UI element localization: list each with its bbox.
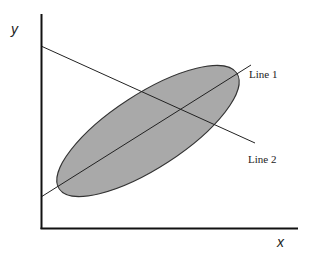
- line-2-label: Line 2: [248, 154, 276, 165]
- y-axis-label: y: [11, 22, 18, 36]
- x-axis-label: x: [277, 235, 284, 249]
- diagram-canvas: y x Line 1 Line 2: [0, 0, 314, 255]
- diagram-graphic: [0, 0, 314, 255]
- line-1: [41, 65, 251, 197]
- shaded-ellipse: [39, 42, 257, 220]
- line-1-label: Line 1: [249, 69, 277, 80]
